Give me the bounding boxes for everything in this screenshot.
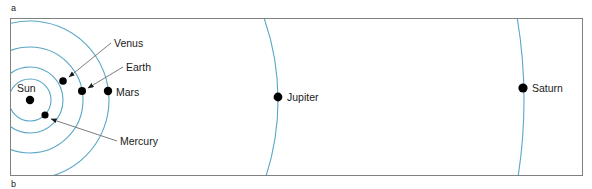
body-label-saturn: Saturn [532, 82, 563, 94]
body-label-mercury: Mercury [120, 135, 159, 147]
body-earth [78, 87, 86, 95]
body-label-sun: Sun [17, 82, 36, 94]
body-label-mars: Mars [116, 86, 139, 98]
body-label-earth: Earth [126, 61, 151, 73]
body-label-jupiter: Jupiter [287, 91, 319, 103]
panel-label-b: b [11, 180, 16, 189]
body-mars [104, 87, 112, 95]
solar-system-diagram: SunVenusEarthMarsMercuryJupiterSaturn [0, 0, 592, 189]
body-sun [26, 96, 34, 104]
body-jupiter [274, 93, 283, 102]
body-saturn [518, 83, 527, 92]
body-label-venus: Venus [114, 37, 143, 49]
figure-solar-system: a SunVenusEarthMarsMercuryJupiterSaturn … [0, 0, 592, 189]
body-venus [59, 77, 67, 85]
body-mercury [41, 111, 48, 118]
